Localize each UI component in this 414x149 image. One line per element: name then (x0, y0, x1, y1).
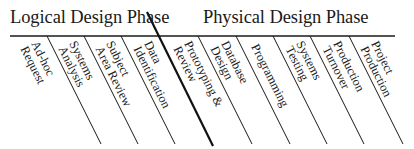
physical-phase-title: Physical Design Phase (203, 6, 368, 28)
phase-timeline-diagram: Logical Design Phase Physical Design Pha… (0, 0, 414, 149)
logical-phase-title: Logical Design Phase (10, 6, 169, 28)
